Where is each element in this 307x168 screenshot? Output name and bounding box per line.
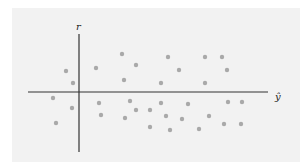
data-point bbox=[97, 101, 101, 105]
data-point bbox=[148, 108, 152, 112]
data-point bbox=[203, 81, 207, 85]
data-point bbox=[239, 122, 243, 126]
data-point bbox=[222, 122, 226, 126]
data-point bbox=[164, 114, 168, 118]
data-point bbox=[64, 69, 68, 73]
data-point bbox=[99, 113, 103, 117]
data-point bbox=[207, 114, 211, 118]
data-point bbox=[186, 102, 190, 106]
data-point bbox=[226, 100, 230, 104]
residual-plot: r ŷ bbox=[0, 0, 307, 168]
data-point bbox=[180, 117, 184, 121]
data-point bbox=[240, 100, 244, 104]
data-point bbox=[123, 116, 127, 120]
data-point bbox=[70, 106, 74, 110]
data-point bbox=[122, 78, 126, 82]
data-point bbox=[54, 121, 58, 125]
data-point bbox=[120, 52, 124, 56]
data-point bbox=[94, 66, 98, 70]
data-point bbox=[168, 128, 172, 132]
x-axis-label: ŷ bbox=[274, 91, 281, 102]
data-point bbox=[148, 125, 152, 129]
data-point bbox=[197, 127, 201, 131]
data-point bbox=[220, 55, 224, 59]
data-point bbox=[128, 99, 132, 103]
y-axis-label: r bbox=[76, 21, 82, 32]
data-point bbox=[166, 55, 170, 59]
data-point bbox=[177, 68, 181, 72]
data-point bbox=[203, 55, 207, 59]
data-point bbox=[159, 81, 163, 85]
data-point bbox=[134, 108, 138, 112]
data-point bbox=[71, 81, 75, 85]
data-point bbox=[134, 63, 138, 67]
data-point bbox=[51, 96, 55, 100]
data-point bbox=[159, 101, 163, 105]
data-point bbox=[225, 68, 229, 72]
